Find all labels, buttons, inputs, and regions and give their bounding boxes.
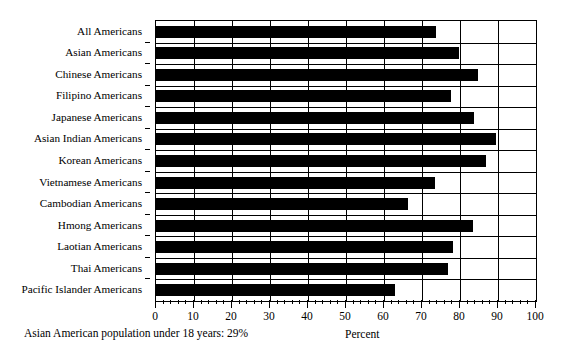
tick-minor <box>223 300 224 304</box>
category-label: Chinese Americans <box>0 68 142 80</box>
tick-minor <box>315 300 316 304</box>
x-tick-label: 70 <box>401 309 441 323</box>
tick-minor <box>170 300 171 304</box>
chart-footnote: Asian American population under 18 years… <box>24 326 248 340</box>
tick-minor <box>527 300 528 304</box>
tick-minor <box>185 300 186 304</box>
tick-minor <box>368 300 369 304</box>
tick-minor <box>406 300 407 304</box>
category-axis: All AmericansAsian AmericansChinese Amer… <box>0 20 150 300</box>
x-tick-label: 0 <box>135 309 175 323</box>
x-axis-tick-labels: 0102030405060708090100 <box>0 309 566 325</box>
category-tick <box>145 149 150 150</box>
tick-minor <box>398 300 399 304</box>
tick-major <box>231 300 232 308</box>
category-tick <box>145 63 150 64</box>
bar <box>156 198 408 210</box>
bar <box>156 90 451 102</box>
bar <box>156 112 474 124</box>
tick-minor <box>216 300 217 304</box>
tick-minor <box>261 300 262 304</box>
category-tick <box>145 106 150 107</box>
tick-minor <box>360 300 361 304</box>
category-label: Pacific Islander Americans <box>0 283 142 295</box>
bar <box>156 177 435 189</box>
x-tick-label: 40 <box>287 309 327 323</box>
category-tick <box>145 42 150 43</box>
category-label: Japanese Americans <box>0 111 142 123</box>
tick-minor <box>505 300 506 304</box>
tick-minor <box>277 300 278 304</box>
bar <box>156 155 486 167</box>
bar <box>156 263 448 275</box>
tick-minor <box>520 300 521 304</box>
tick-minor <box>337 300 338 304</box>
category-label: Asian Americans <box>0 46 142 58</box>
tick-minor <box>375 300 376 304</box>
category-tick <box>145 235 150 236</box>
category-tick <box>145 214 150 215</box>
category-label: Asian Indian Americans <box>0 132 142 144</box>
bar <box>156 241 453 253</box>
x-tick-label: 10 <box>173 309 213 323</box>
bar <box>156 47 459 59</box>
tick-minor <box>322 300 323 304</box>
tick-minor <box>178 300 179 304</box>
tick-minor <box>482 300 483 304</box>
category-label: All Americans <box>0 25 142 37</box>
tick-major <box>421 300 422 308</box>
category-label: Cambodian Americans <box>0 197 142 209</box>
tick-minor <box>299 300 300 304</box>
tick-minor <box>474 300 475 304</box>
tick-minor <box>413 300 414 304</box>
tick-minor <box>201 300 202 304</box>
tick-major <box>383 300 384 308</box>
category-tick <box>145 257 150 258</box>
tick-major <box>269 300 270 308</box>
category-tick <box>145 85 150 86</box>
tick-minor <box>239 300 240 304</box>
tick-minor <box>246 300 247 304</box>
tick-minor <box>254 300 255 304</box>
category-label: Vietnamese Americans <box>0 176 142 188</box>
category-label: Hmong Americans <box>0 219 142 231</box>
category-label: Korean Americans <box>0 154 142 166</box>
tick-major <box>193 300 194 308</box>
tick-minor <box>451 300 452 304</box>
category-label: Thai Americans <box>0 262 142 274</box>
x-tick-label: 100 <box>515 309 555 323</box>
bar <box>156 69 478 81</box>
tick-minor <box>208 300 209 304</box>
tick-minor <box>444 300 445 304</box>
x-tick-label: 20 <box>211 309 251 323</box>
category-tick <box>145 171 150 172</box>
gridline-vertical <box>498 21 499 301</box>
tick-major <box>497 300 498 308</box>
bar-chart: All AmericansAsian AmericansChinese Amer… <box>0 0 566 362</box>
category-tick <box>145 192 150 193</box>
tick-minor <box>330 300 331 304</box>
tick-major <box>155 300 156 308</box>
x-tick-label: 30 <box>249 309 289 323</box>
category-tick <box>145 128 150 129</box>
tick-minor <box>292 300 293 304</box>
x-tick-label: 50 <box>325 309 365 323</box>
tick-minor <box>467 300 468 304</box>
tick-minor <box>489 300 490 304</box>
tick-minor <box>429 300 430 304</box>
tick-minor <box>436 300 437 304</box>
category-tick <box>145 278 150 279</box>
tick-minor <box>353 300 354 304</box>
tick-minor <box>512 300 513 304</box>
plot-inner <box>156 21 536 301</box>
tick-major <box>307 300 308 308</box>
bar <box>156 26 436 38</box>
tick-minor <box>163 300 164 304</box>
x-tick-label: 60 <box>363 309 403 323</box>
bar <box>156 133 496 145</box>
bar <box>156 220 473 232</box>
x-tick-label: 90 <box>477 309 517 323</box>
plot-area <box>155 20 537 302</box>
category-label: Filipino Americans <box>0 89 142 101</box>
tick-major <box>535 300 536 308</box>
